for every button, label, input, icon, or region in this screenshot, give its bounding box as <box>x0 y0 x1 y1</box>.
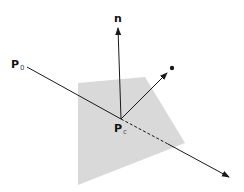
intersection-point-label: Pc <box>114 123 127 134</box>
target-point <box>170 66 174 70</box>
normal-label: n <box>114 13 122 24</box>
plane-polygon <box>78 77 185 185</box>
origin-point-label: P0 <box>11 59 25 70</box>
origin-point-letter: P <box>11 58 19 71</box>
origin-point-subscript: 0 <box>20 64 24 72</box>
intersection-point-letter: P <box>114 122 122 135</box>
plane-ray-intersection-diagram <box>0 0 244 192</box>
normal-label-text: n <box>114 12 122 25</box>
incident-ray-exit <box>168 144 229 177</box>
intersection-point-subscript: c <box>123 128 127 136</box>
